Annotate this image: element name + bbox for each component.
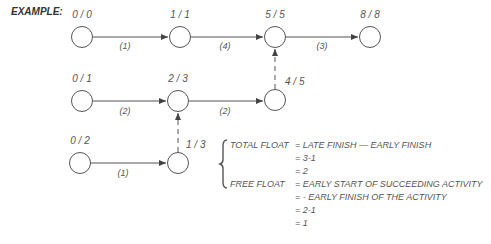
node-label-n1: 0 / 0 xyxy=(72,9,91,20)
free-float-line-1: = - EARLY FINISH OF THE ACTIVITY xyxy=(295,192,447,202)
activity-duration-n6-n7: (2) xyxy=(220,106,231,116)
node-label-n7: 4 / 5 xyxy=(285,76,304,87)
node-label-n3: 5 / 5 xyxy=(265,9,284,20)
free-float-line-2: = 2-1 xyxy=(295,205,316,215)
total-float-line-1: = 3-1 xyxy=(295,153,316,163)
node-circle-n6 xyxy=(168,91,189,112)
free-float-line-0: = EARLY START OF SUCCEEDING ACTIVITY xyxy=(295,179,482,189)
activity-duration-n8-n9: (1) xyxy=(118,168,129,178)
example-title: EXAMPLE: xyxy=(11,6,63,17)
node-circle-n9 xyxy=(168,153,189,174)
node-label-n6: 2 / 3 xyxy=(168,73,187,84)
node-label-n5: 0 / 1 xyxy=(72,73,91,84)
total-float-line-2: = 2 xyxy=(295,166,308,176)
node-circle-n4 xyxy=(360,27,381,48)
total-float-label: TOTAL FLOAT xyxy=(230,140,289,150)
node-circle-n7 xyxy=(265,90,286,111)
activity-duration-n3-n4: (3) xyxy=(317,41,328,51)
network-diagram xyxy=(0,0,491,244)
node-circle-n1 xyxy=(72,27,93,48)
node-label-n4: 8 / 8 xyxy=(360,9,379,20)
brace xyxy=(220,140,227,188)
total-float-line-0: = LATE FINISH — EARLY FINISH xyxy=(295,140,431,150)
free-float-line-3: = 1 xyxy=(295,218,308,228)
node-circle-n2 xyxy=(170,27,191,48)
activity-duration-n5-n6: (2) xyxy=(120,106,131,116)
node-circle-n3 xyxy=(265,27,286,48)
node-circle-n5 xyxy=(72,91,93,112)
node-label-n9: 1 / 3 xyxy=(186,139,205,150)
free-float-label: FREE FLOAT xyxy=(230,179,285,189)
activity-duration-n1-n2: (1) xyxy=(120,41,131,51)
node-label-n8: 0 / 2 xyxy=(70,135,89,146)
node-label-n2: 1 / 1 xyxy=(170,9,189,20)
node-circle-n8 xyxy=(70,153,91,174)
activity-duration-n2-n3: (4) xyxy=(220,41,231,51)
